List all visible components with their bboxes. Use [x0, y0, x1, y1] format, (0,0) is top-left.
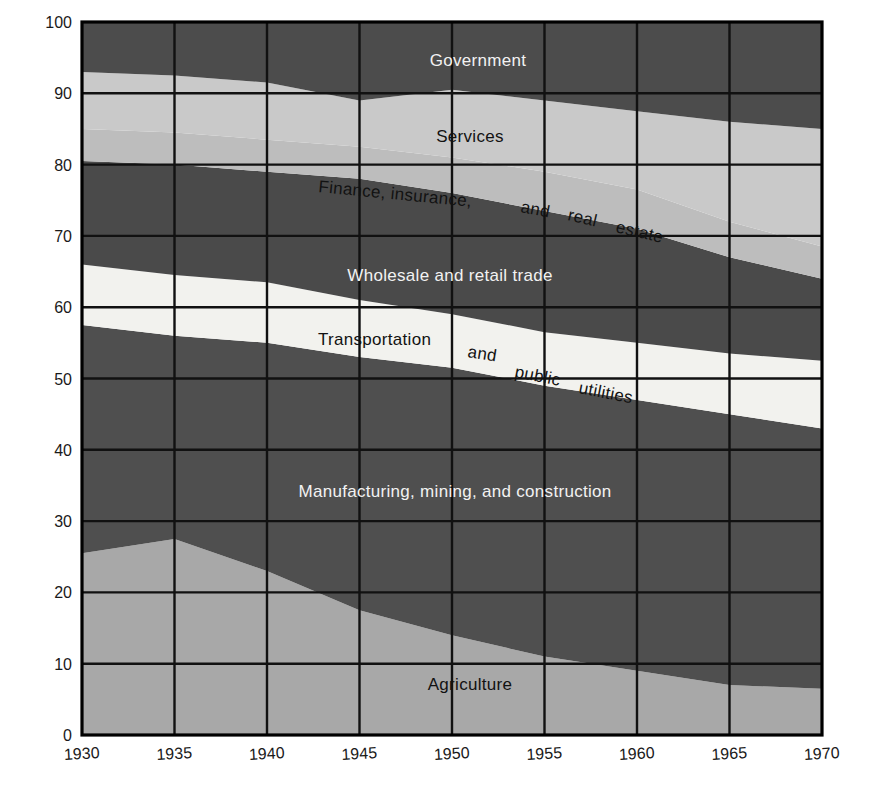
x-tick-label: 1940 — [248, 744, 285, 763]
x-tick-label: 1950 — [433, 744, 470, 763]
x-tick-label: 1930 — [63, 744, 100, 763]
y-tick-label: 0 — [63, 727, 72, 744]
y-tick-label: 20 — [54, 584, 72, 601]
band-label-agriculture: Agriculture — [428, 675, 513, 694]
band-label-manufacturing: Manufacturing, mining, and construction — [298, 482, 611, 501]
band-label-wholesale-retail: Wholesale and retail trade — [347, 266, 552, 285]
y-tick-label: 100 — [45, 14, 72, 31]
y-tick-label: 90 — [54, 85, 72, 102]
x-tick-label: 1970 — [803, 744, 840, 763]
x-tick-label: 1965 — [711, 744, 748, 763]
y-tick-label: 50 — [54, 371, 72, 388]
band-label-transportation-line1: Transportation — [318, 330, 431, 349]
band-label-services: Services — [436, 127, 504, 146]
band-label-government: Government — [430, 51, 527, 70]
y-tick-label: 10 — [54, 656, 72, 673]
y-tick-label: 60 — [54, 299, 72, 316]
y-tick-label: 80 — [54, 157, 72, 174]
x-tick-label: 1960 — [618, 744, 655, 763]
x-tick-label: 1945 — [341, 744, 378, 763]
y-tick-label: 40 — [54, 442, 72, 459]
chart-figure: Percent of labor force 01020304050607080… — [0, 0, 872, 793]
y-tick-label: 70 — [54, 228, 72, 245]
x-tick-label: 1955 — [526, 744, 563, 763]
x-tick-label: 1935 — [156, 744, 193, 763]
stacked-area-chart: 0102030405060708090100 19301935194019451… — [0, 0, 872, 793]
y-tick-label: 30 — [54, 513, 72, 530]
x-axis-ticks: 193019351940194519501955196019651970 — [63, 744, 840, 763]
